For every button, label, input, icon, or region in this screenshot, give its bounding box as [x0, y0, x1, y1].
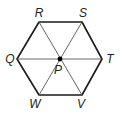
- center-label-P: P: [54, 64, 62, 76]
- vertex-label-S: S: [79, 7, 87, 19]
- vertex-label-W: W: [29, 98, 40, 110]
- vertex-label-T: T: [106, 53, 113, 65]
- vertex-label-V: V: [77, 98, 85, 110]
- center-point-P: [58, 57, 63, 62]
- vertex-label-Q: Q: [5, 53, 14, 65]
- vertex-label-R: R: [35, 7, 44, 19]
